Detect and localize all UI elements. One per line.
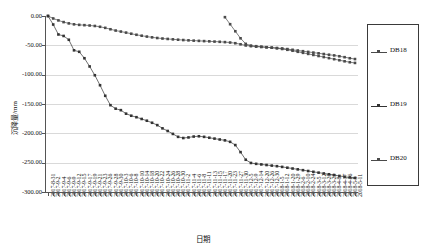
data-point-marker	[114, 107, 117, 110]
data-point-marker	[166, 38, 169, 41]
chart-legend: DB18DB19DB20	[367, 24, 419, 186]
data-point-marker	[187, 136, 190, 139]
data-point-marker	[78, 50, 81, 53]
data-point-marker	[302, 52, 305, 55]
data-point-marker	[239, 151, 242, 154]
data-point-marker	[83, 57, 86, 60]
data-point-marker	[270, 46, 273, 49]
data-point-marker	[317, 55, 320, 58]
data-point-marker	[328, 57, 331, 60]
data-point-marker	[265, 164, 268, 167]
data-point-marker	[286, 48, 289, 51]
data-point-marker	[198, 135, 201, 138]
data-point-marker	[302, 169, 305, 172]
data-point-marker	[177, 38, 180, 41]
data-point-marker	[218, 138, 221, 141]
data-point-marker	[338, 55, 341, 58]
series-plot-area	[0, 0, 421, 248]
legend-label: DB18	[390, 46, 407, 54]
data-point-marker	[322, 53, 325, 56]
data-point-marker	[192, 135, 195, 138]
data-point-marker	[208, 40, 211, 43]
data-point-marker	[151, 121, 154, 124]
legend-label: DB20	[390, 154, 407, 162]
data-point-marker	[203, 40, 206, 43]
data-point-marker	[182, 137, 185, 140]
data-point-marker	[349, 61, 352, 64]
data-point-marker	[229, 41, 232, 44]
legend-entry-db19[interactable]: DB19	[371, 101, 417, 111]
data-point-marker	[224, 41, 227, 44]
data-point-marker	[255, 45, 258, 48]
data-point-marker	[130, 32, 133, 35]
data-point-marker	[166, 130, 169, 133]
data-point-marker	[114, 29, 117, 32]
data-point-marker	[218, 41, 221, 44]
data-point-marker	[281, 166, 284, 169]
data-point-marker	[244, 43, 247, 46]
data-point-marker	[140, 34, 143, 37]
data-point-marker	[224, 139, 227, 142]
data-point-marker	[343, 60, 346, 63]
data-point-marker	[354, 177, 357, 180]
data-point-marker	[99, 84, 102, 87]
data-point-marker	[250, 44, 253, 47]
data-point-marker	[73, 23, 76, 26]
data-point-marker	[286, 166, 289, 169]
data-point-marker	[312, 171, 315, 174]
data-point-marker	[224, 16, 227, 19]
data-point-marker	[234, 30, 237, 33]
data-point-marker	[68, 22, 71, 25]
data-point-marker	[156, 37, 159, 40]
data-point-marker	[229, 23, 232, 26]
data-point-marker	[177, 136, 180, 139]
data-point-marker	[229, 141, 232, 144]
data-point-marker	[151, 36, 154, 39]
data-point-marker	[182, 39, 185, 42]
data-point-marker	[244, 158, 247, 161]
data-point-marker	[109, 28, 112, 31]
legend-marker-icon	[371, 159, 387, 161]
data-point-marker	[265, 46, 268, 49]
data-point-marker	[276, 47, 279, 50]
legend-marker-icon	[371, 51, 387, 53]
data-point-marker	[192, 39, 195, 42]
data-point-marker	[250, 162, 253, 165]
data-point-marker	[94, 25, 97, 28]
data-point-marker	[73, 49, 76, 52]
data-point-marker	[239, 43, 242, 46]
data-point-marker	[52, 17, 55, 20]
data-point-marker	[104, 94, 107, 97]
data-point-marker	[146, 35, 149, 38]
data-point-marker	[338, 175, 341, 178]
data-point-marker	[343, 56, 346, 59]
data-point-marker	[156, 124, 159, 127]
data-point-marker	[83, 24, 86, 27]
data-point-marker	[333, 174, 336, 177]
data-point-marker	[281, 48, 284, 51]
data-point-marker	[208, 136, 211, 139]
data-point-marker	[312, 54, 315, 57]
data-point-marker	[307, 53, 310, 56]
data-point-marker	[354, 62, 357, 65]
data-point-marker	[338, 59, 341, 62]
data-point-marker	[291, 167, 294, 170]
data-point-marker	[104, 27, 107, 30]
data-point-marker	[78, 24, 81, 27]
data-point-marker	[349, 176, 352, 179]
data-point-marker	[270, 164, 273, 167]
data-point-marker	[135, 116, 138, 119]
data-point-marker	[328, 173, 331, 176]
data-point-marker	[120, 109, 123, 112]
data-point-marker	[120, 30, 123, 33]
series-line-db19	[48, 16, 355, 178]
data-point-marker	[255, 163, 258, 166]
data-point-marker	[307, 170, 310, 173]
data-point-marker	[99, 25, 102, 28]
data-point-marker	[349, 57, 352, 60]
legend-entry-db18[interactable]: DB18	[371, 47, 417, 57]
data-point-marker	[333, 58, 336, 61]
settlement-line-chart: 沉降量/mm 日期 0.00-50.00-100.00-150.00-200.0…	[0, 0, 421, 248]
legend-entry-db20[interactable]: DB20	[371, 155, 417, 165]
data-point-marker	[94, 74, 97, 77]
